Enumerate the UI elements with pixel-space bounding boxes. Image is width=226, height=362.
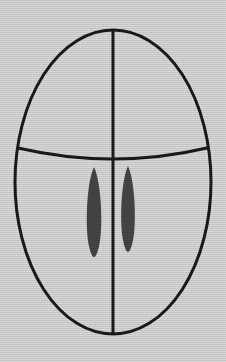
figure-svg: Bilateral oval figure with transverse ar… <box>0 0 226 362</box>
right-lenticular-mark <box>121 166 135 252</box>
diagram-canvas: Bilateral oval figure with transverse ar… <box>0 0 226 362</box>
left-lenticular-mark <box>87 167 102 257</box>
